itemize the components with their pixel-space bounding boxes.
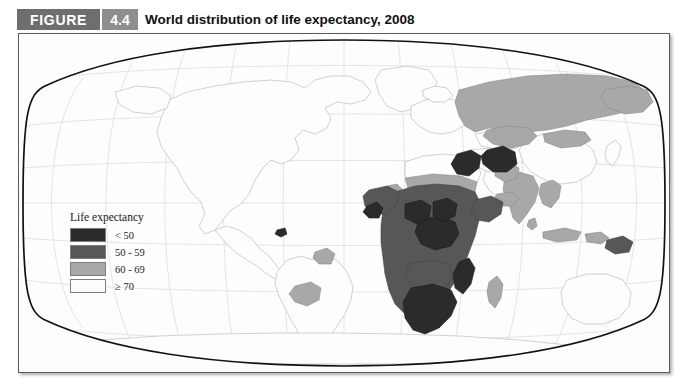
- legend-label-under-50: < 50: [115, 230, 134, 241]
- legend-swatch-70-plus: [70, 279, 106, 293]
- legend-title: Life expectancy: [70, 211, 182, 223]
- legend-label-50-59: 50 - 59: [115, 247, 145, 258]
- legend-label-60-69: 60 - 69: [115, 264, 145, 275]
- map-legend: Life expectancy < 50 50 - 59 60 - 69 ≥ 7…: [70, 211, 182, 295]
- figure-label: FIGURE: [17, 9, 100, 30]
- figure-header: FIGURE 4.4: [17, 9, 138, 30]
- legend-item-70-plus: ≥ 70: [70, 278, 182, 294]
- figure-title: World distribution of life expectancy, 2…: [145, 10, 415, 29]
- legend-swatch-under-50: [70, 228, 106, 242]
- world-map: [19, 34, 669, 372]
- figure-number: 4.4: [100, 9, 138, 30]
- legend-swatch-60-69: [70, 262, 106, 276]
- legend-item-50-59: 50 - 59: [70, 244, 182, 260]
- map-frame: Life expectancy < 50 50 - 59 60 - 69 ≥ 7…: [18, 33, 670, 373]
- legend-swatch-50-59: [70, 245, 106, 259]
- legend-item-under-50: < 50: [70, 227, 182, 243]
- legend-item-60-69: 60 - 69: [70, 261, 182, 277]
- legend-label-70-plus: ≥ 70: [115, 281, 134, 292]
